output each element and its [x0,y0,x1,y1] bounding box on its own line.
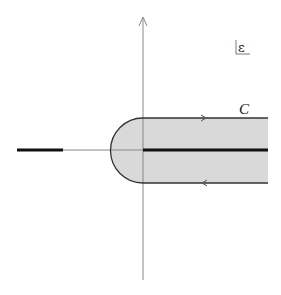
contour-diagram: C ε [0,0,281,295]
plane-label-box: ε [236,40,250,55]
plane-label: ε [238,40,245,55]
contour-label: C [239,101,250,117]
